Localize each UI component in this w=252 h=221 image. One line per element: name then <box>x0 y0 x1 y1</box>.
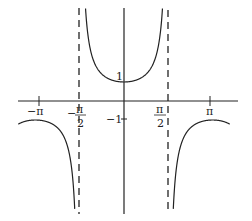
label-pi: π <box>206 105 213 118</box>
label-neg-pi-half-sign: − <box>67 107 76 120</box>
sec-graph: −π − π 2 π 2 π 1 −1 <box>0 0 252 221</box>
label-neg-pi-half-den: 2 <box>77 117 84 130</box>
label-y-one: 1 <box>116 70 123 83</box>
label-pi-half-den: 2 <box>157 117 164 130</box>
curve-left-branch <box>18 120 74 209</box>
label-neg-pi: −π <box>27 105 43 118</box>
label-pi-half-num: π <box>156 103 163 116</box>
label-y-neg-one: −1 <box>106 113 122 126</box>
label-neg-pi-half-num: π <box>76 103 83 116</box>
curve-right-branch <box>173 120 229 209</box>
